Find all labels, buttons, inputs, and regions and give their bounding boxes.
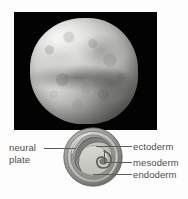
label-neural-plate: neural plate bbox=[9, 142, 36, 165]
embryo-figure: neural plate ectoderm mesoderm endoderm bbox=[0, 0, 188, 199]
leader-line-endoderm bbox=[120, 174, 132, 175]
embryo-cross-section-diagram bbox=[63, 127, 123, 187]
cross-section-svg bbox=[63, 127, 123, 187]
label-neural-plate-line2: plate bbox=[9, 154, 36, 166]
pointer-line-ectoderm bbox=[96, 146, 121, 147]
pointer-line-mesoderm-horizontal bbox=[104, 162, 121, 163]
label-ectoderm: ectoderm bbox=[133, 141, 173, 153]
label-endoderm: endoderm bbox=[133, 169, 177, 181]
leader-line-neural-plate bbox=[44, 148, 76, 149]
label-neural-plate-line1: neural bbox=[9, 142, 36, 154]
embryo-sphere-image bbox=[30, 18, 138, 124]
pointer-line-endoderm bbox=[93, 174, 121, 175]
label-mesoderm: mesoderm bbox=[133, 157, 179, 169]
leader-line-ectoderm bbox=[120, 146, 132, 147]
leader-line-mesoderm bbox=[120, 162, 132, 163]
embryo-photograph-panel bbox=[14, 12, 157, 130]
embryo-surface-texture bbox=[30, 18, 138, 124]
